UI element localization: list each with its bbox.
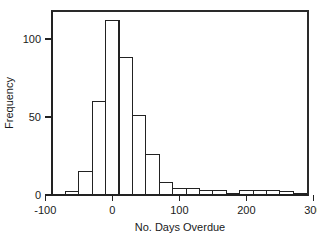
histogram-chart: -1000100200300No. Days Overdue050100Freq…	[0, 0, 317, 240]
histogram-bar	[253, 190, 266, 195]
plot-frame	[52, 11, 308, 195]
histogram-bar	[173, 189, 186, 195]
y-axis-tick-label: 50	[29, 111, 41, 123]
x-axis-tick-label: 100	[170, 204, 188, 216]
x-axis-tick-label: 0	[109, 204, 115, 216]
bars-group	[65, 20, 306, 195]
histogram-bar	[240, 190, 253, 195]
y-axis-tick-label: 0	[35, 189, 41, 201]
x-axis-tick-label: 200	[237, 204, 255, 216]
histogram-bar	[106, 20, 119, 195]
histogram-bar	[199, 190, 212, 195]
x-axis-group: -1000100200300No. Days Overdue	[34, 195, 317, 233]
x-axis-tick-label: 300	[304, 204, 317, 216]
y-axis-title: Frequency	[3, 77, 15, 129]
y-axis-tick-label: 100	[23, 33, 41, 45]
y-axis-group: 050100Frequency	[3, 11, 52, 201]
x-axis-title: No. Days Overdue	[135, 221, 225, 233]
histogram-bar	[213, 190, 226, 195]
histogram-bar	[79, 172, 92, 195]
histogram-bar	[266, 190, 279, 195]
histogram-bar	[146, 154, 159, 195]
plot-frame-group	[52, 11, 308, 195]
histogram-bar	[92, 101, 105, 195]
x-axis-tick-label: -100	[34, 204, 56, 216]
histogram-bar	[186, 189, 199, 195]
histogram-bar	[159, 183, 172, 195]
histogram-bar	[119, 58, 132, 195]
histogram-bar	[132, 115, 145, 195]
histogram-figure: -1000100200300No. Days Overdue050100Freq…	[0, 0, 317, 240]
